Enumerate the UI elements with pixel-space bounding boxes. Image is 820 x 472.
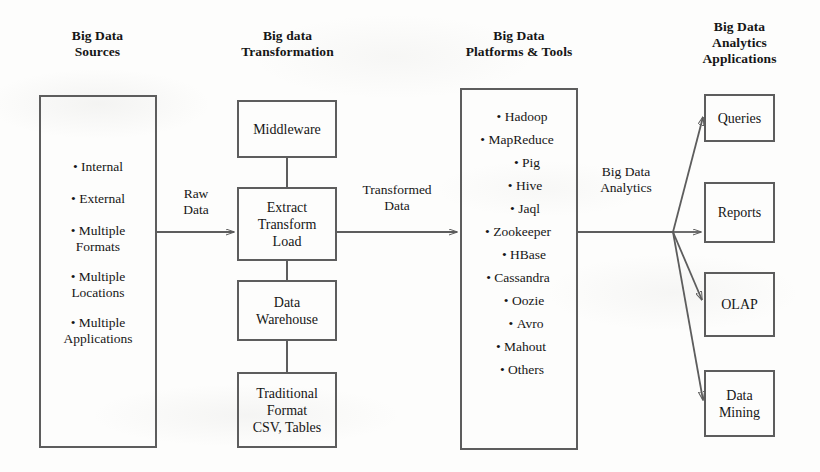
list-item: • External — [41, 191, 155, 207]
list-item-label: Zookeeper — [493, 224, 551, 239]
platforms-bullet-glyph: • — [500, 362, 508, 377]
edge-label-transformed-data: Transformed Data — [338, 182, 456, 214]
list-item-label: Oozie — [512, 293, 544, 308]
list-item: • Mahout — [466, 339, 576, 355]
column-heading-transformation: Big data Transformation — [215, 28, 360, 60]
platforms-bullet-glyph: • — [504, 293, 512, 308]
list-item-label: Avro — [517, 316, 544, 331]
arrow-to-queries — [673, 117, 703, 232]
list-item: • Pig — [478, 155, 576, 171]
list-item: • Zookeeper — [460, 224, 576, 240]
edge-label-raw-data: Raw Data — [160, 186, 232, 218]
platforms-bullet-glyph: • — [497, 109, 505, 124]
big-data-sources-box: • Internal • External • Multiple Formats… — [39, 95, 157, 448]
column-heading-platforms: Big Data Platforms & Tools — [443, 28, 595, 60]
list-item: • Others — [468, 362, 576, 378]
reports-label: Reports — [718, 204, 762, 221]
sources-bullet-glyph: • — [71, 315, 79, 330]
reports-box: Reports — [704, 182, 775, 243]
platforms-bullet-glyph: • — [508, 178, 516, 193]
data-mining-label: Data Mining — [719, 387, 760, 421]
edge-label-big-data-analytics: Big Data Analytics — [580, 164, 672, 196]
list-item: • Multiple Locations — [41, 269, 155, 301]
platforms-bullet-glyph: • — [496, 339, 504, 354]
list-item: • Hadoop — [468, 109, 576, 125]
list-item: • Internal — [41, 159, 155, 175]
list-item: • Jaql — [474, 201, 576, 217]
sources-bullet-glyph: • — [71, 269, 79, 284]
arrow-to-olap — [673, 232, 702, 300]
sources-list: • Internal • External • Multiple Formats… — [41, 97, 155, 347]
list-item-label: Cassandra — [494, 270, 549, 285]
list-item-label: Internal — [81, 159, 123, 174]
platforms-list: • Hadoop • MapReduce • Pig • Hive • Jaql… — [462, 90, 576, 378]
list-item: • Oozie — [472, 293, 576, 309]
list-item-label: Others — [508, 362, 544, 377]
platforms-bullet-glyph: • — [509, 316, 517, 331]
list-item-label: Hadoop — [505, 109, 548, 124]
olap-label: OLAP — [721, 296, 758, 313]
list-item: • Cassandra — [460, 270, 576, 286]
list-item-label: MapReduce — [488, 132, 553, 147]
list-item-label: Multiple Locations — [71, 269, 125, 300]
traditional-format-label: Traditional Format CSV, Tables — [253, 385, 322, 436]
platforms-bullet-glyph: • — [485, 224, 493, 239]
list-item-label: Pig — [522, 155, 540, 170]
list-item: • Multiple Formats — [41, 223, 155, 255]
list-item: • Multiple Applications — [41, 315, 155, 347]
list-item: • Avro — [476, 316, 576, 332]
arrow-to-data-mining — [673, 232, 703, 400]
sources-bullet-glyph: • — [71, 223, 79, 238]
data-mining-box: Data Mining — [704, 370, 775, 437]
list-item-label: Mahout — [504, 339, 546, 354]
list-item-label: HBase — [510, 247, 546, 262]
list-item: • MapReduce — [458, 132, 576, 148]
platforms-and-tools-box: • Hadoop • MapReduce • Pig • Hive • Jaql… — [460, 88, 578, 450]
list-item-label: Multiple Formats — [76, 223, 125, 254]
list-item: • Hive — [474, 178, 576, 194]
column-heading-applications: Big Data Analytics Applications — [672, 19, 807, 67]
sources-bullet-glyph: • — [73, 159, 81, 174]
etl-label: Extract Transform Load — [258, 199, 317, 250]
sources-bullet-glyph: • — [71, 191, 79, 206]
queries-box: Queries — [704, 94, 775, 142]
olap-box: OLAP — [704, 272, 775, 337]
queries-label: Queries — [718, 110, 762, 127]
platforms-bullet-glyph: • — [514, 155, 522, 170]
data-warehouse-box: Data Warehouse — [237, 280, 337, 341]
middleware-box: Middleware — [237, 100, 337, 158]
column-heading-sources: Big Data Sources — [25, 28, 170, 60]
data-warehouse-label: Data Warehouse — [256, 294, 318, 328]
list-item: • HBase — [472, 247, 576, 263]
etl-box: Extract Transform Load — [237, 187, 337, 261]
platforms-bullet-glyph: • — [510, 201, 518, 216]
big-data-architecture-diagram: Big Data Sources Big data Transformation… — [0, 0, 820, 472]
list-item-label: Jaql — [518, 201, 540, 216]
platforms-bullet-glyph: • — [502, 247, 510, 262]
middleware-label: Middleware — [253, 121, 321, 138]
traditional-format-box: Traditional Format CSV, Tables — [237, 372, 337, 448]
list-item-label: Hive — [516, 178, 542, 193]
list-item-label: External — [79, 191, 125, 206]
